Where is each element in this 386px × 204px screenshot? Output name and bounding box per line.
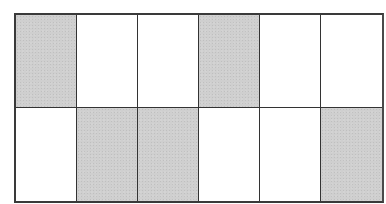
grid-cell-unshaded [138,15,199,108]
grid-cell-unshaded [260,15,321,108]
grid-cell-unshaded [77,15,138,108]
grid-cell-unshaded [16,108,77,201]
grid-cell-shaded [138,108,199,201]
grid-cell-shaded [16,15,77,108]
grid-cell-unshaded [199,108,260,201]
grid-cell-shaded [77,108,138,201]
shaded-grid-diagram [14,13,384,203]
grid-cell-shaded [199,15,260,108]
grid-cell-unshaded [260,108,321,201]
grid-cell-shaded [321,108,382,201]
grid-cell-unshaded [321,15,382,108]
